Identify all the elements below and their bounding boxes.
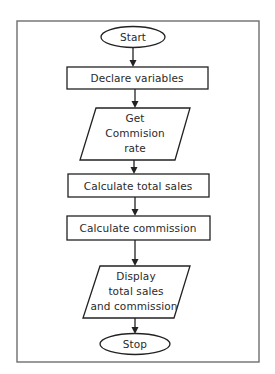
node-label: Declare variables bbox=[90, 72, 183, 84]
arrow-declare-to-get-rate bbox=[132, 89, 139, 108]
node-label: Calculate commission bbox=[80, 222, 197, 234]
node-label-line-1: Display bbox=[116, 270, 155, 282]
node-label: Calculate total sales bbox=[84, 180, 193, 192]
node-display-results: Display total sales and commission bbox=[83, 266, 190, 318]
node-label-line-2: total sales bbox=[108, 285, 163, 297]
arrow-calc-comm-to-display bbox=[132, 240, 139, 266]
node-label-line-3: rate bbox=[124, 142, 146, 154]
flowchart-diagram: Start Declare variables Get Commision ra… bbox=[0, 0, 275, 374]
node-label: Stop bbox=[123, 338, 148, 350]
node-start: Start bbox=[101, 27, 165, 48]
arrow-display-to-stop bbox=[132, 318, 139, 334]
node-label: Start bbox=[120, 31, 146, 43]
node-label-line-2: Commision bbox=[105, 127, 165, 139]
node-calculate-commission: Calculate commission bbox=[67, 216, 210, 240]
node-get-commision-rate: Get Commision rate bbox=[80, 108, 190, 160]
node-label-line-3: and commission bbox=[91, 300, 178, 312]
arrow-calc-sales-to-calc-comm bbox=[132, 197, 139, 216]
arrow-start-to-declare bbox=[130, 47, 137, 67]
node-calculate-total-sales: Calculate total sales bbox=[68, 174, 209, 197]
arrow-get-rate-to-calc-sales bbox=[131, 160, 138, 174]
node-declare-variables: Declare variables bbox=[67, 67, 208, 89]
node-stop: Stop bbox=[100, 334, 170, 355]
node-label-line-1: Get bbox=[125, 112, 144, 124]
